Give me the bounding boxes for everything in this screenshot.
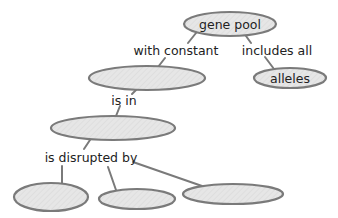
edge-isdisruptedby-to-blank5 — [133, 162, 202, 186]
link-label-includes-all: includes all — [242, 43, 312, 58]
node-blank-4[interactable] — [99, 189, 175, 209]
node-blank-1[interactable] — [89, 66, 205, 90]
edge-genepool-to-withconstant — [188, 33, 196, 43]
node-label: alleles — [270, 71, 310, 86]
node-label: gene pool — [199, 17, 261, 32]
link-label-is-in: is in — [111, 93, 136, 108]
node-gene-pool: gene pool — [184, 12, 276, 36]
node-ellipse[interactable] — [14, 183, 88, 211]
node-blank-3[interactable] — [14, 183, 88, 211]
node-ellipse[interactable] — [89, 66, 205, 90]
link-label-with-constant: with constant — [134, 43, 219, 58]
edge-isdisruptedby-to-blank4 — [108, 167, 116, 190]
node-blank-2[interactable] — [51, 116, 175, 140]
edge-blank2-to-isdisruptedby — [84, 140, 90, 149]
edge-includesall-to-alleles — [265, 57, 274, 69]
node-ellipse[interactable] — [99, 189, 175, 209]
edge-isin-to-blank2 — [116, 106, 120, 116]
node-ellipse[interactable] — [183, 184, 283, 204]
node-ellipse[interactable] — [51, 116, 175, 140]
node-alleles: alleles — [254, 68, 326, 88]
node-blank-5[interactable] — [183, 184, 283, 204]
link-label-is-disrupted-by: is disrupted by — [45, 150, 138, 165]
concept-map: gene pool alleles with constant includes… — [0, 0, 338, 218]
